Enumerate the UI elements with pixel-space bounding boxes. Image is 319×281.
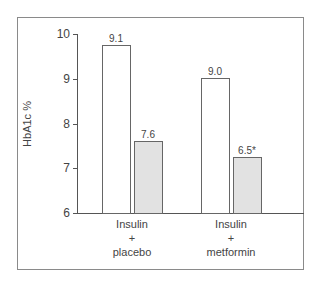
y-tick-label: 10 [50,28,70,40]
x-category-label-placebo: Insulin + placebo [92,217,172,259]
x-category-label-metformin: Insulin + metformin [191,217,271,259]
bar-value-label: 9.1 [96,33,136,44]
category-line: + [92,231,172,245]
category-line: placebo [92,245,172,259]
bar-placebo-end [134,141,163,214]
y-tick-label: 8 [50,118,70,130]
bar-value-label: 7.6 [128,129,168,140]
bar-value-label: 9.0 [195,66,235,77]
y-tick [73,213,77,214]
y-tick-label: 9 [50,73,70,85]
y-tick [73,79,77,80]
bar-metformin-baseline [201,78,230,214]
y-axis-line [77,34,78,214]
y-tick-label: 7 [50,162,70,174]
y-axis-label: HbA1c % [21,101,33,147]
category-line: + [191,231,271,245]
category-line: Insulin [191,217,271,231]
bar-value-label: 6.5* [227,145,267,156]
category-line: Insulin [92,217,172,231]
y-tick [73,34,77,35]
y-tick [73,124,77,125]
bar-metformin-end [233,157,262,214]
y-tick-label: 6 [50,207,70,219]
bar-placebo-baseline [102,45,131,214]
category-line: metformin [191,245,271,259]
y-tick [73,168,77,169]
